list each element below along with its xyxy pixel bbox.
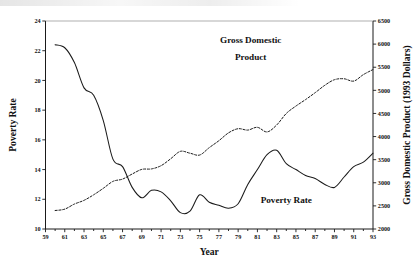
annotations: Gross DomesticProductPoverty Rate bbox=[220, 35, 312, 205]
axis-titles: YearPoverty RateGross Domestic Product (… bbox=[7, 45, 413, 256]
y-axis-left-tick-label: 24 bbox=[35, 17, 41, 24]
x-axis-tick-label: 75 bbox=[197, 233, 203, 240]
x-axis-tick-label: 79 bbox=[235, 233, 241, 240]
x-axis-title: Year bbox=[200, 246, 220, 257]
x-axis-tick-label: 87 bbox=[312, 233, 318, 240]
y-axis-right: 2000250030003500400045005000550060006500 bbox=[373, 17, 390, 232]
x-axis-tick-label: 67 bbox=[119, 233, 125, 240]
x-axis-tick-label: 59 bbox=[42, 233, 48, 240]
y-axis-right-tick-label: 5000 bbox=[378, 87, 390, 94]
x-axis-tick-label: 83 bbox=[274, 233, 280, 240]
y-axis-left-tick-label: 14 bbox=[35, 166, 41, 173]
poverty-gdp-chart-figure: 1012141618202224200025003000350040004500… bbox=[0, 0, 419, 261]
x-axis-tick-label: 73 bbox=[177, 233, 183, 240]
y-axis-right-tick-label: 6000 bbox=[378, 40, 390, 47]
y-axis-left-tick-label: 10 bbox=[35, 225, 41, 232]
x-axis-tick-label: 69 bbox=[139, 233, 145, 240]
y-axis-right-tick-label: 5500 bbox=[378, 63, 390, 70]
y-axis-right-tick-label: 4500 bbox=[378, 110, 390, 117]
dual-axis-line-chart: 1012141618202224200025003000350040004500… bbox=[0, 0, 419, 261]
y-axis-right-tick-label: 2000 bbox=[378, 225, 390, 232]
gdp-line bbox=[55, 70, 373, 211]
x-axis-tick-label: 61 bbox=[62, 233, 68, 240]
y-axis-left: 1012141618202224 bbox=[35, 17, 46, 232]
series-group bbox=[55, 45, 373, 214]
x-axis: 596163656769717375777981838587899193 bbox=[42, 229, 376, 240]
x-axis-tick-label: 63 bbox=[81, 233, 87, 240]
x-axis-tick-label: 71 bbox=[158, 233, 164, 240]
x-axis-tick-label: 89 bbox=[331, 233, 337, 240]
y-axis-right-tick-label: 4000 bbox=[378, 133, 390, 140]
y-axis-right-tick-label: 6500 bbox=[378, 17, 390, 24]
y-axis-left-tick-label: 18 bbox=[35, 106, 41, 113]
plot-frame bbox=[46, 21, 374, 229]
y-axis-left-tick-label: 20 bbox=[35, 77, 41, 84]
y-axis-right-title: Gross Domestic Product (1993 Dollars) bbox=[401, 45, 413, 205]
x-axis-tick-label: 77 bbox=[216, 233, 222, 240]
poverty-rate-series-label: Poverty Rate bbox=[261, 195, 312, 205]
y-axis-left-tick-label: 22 bbox=[35, 47, 41, 54]
y-axis-left-tick-label: 12 bbox=[35, 195, 41, 202]
gdp-series-label: Gross Domestic bbox=[220, 35, 281, 45]
x-axis-tick-label: 85 bbox=[293, 233, 299, 240]
y-axis-right-tick-label: 3500 bbox=[378, 156, 390, 163]
gdp-series-label: Product bbox=[235, 52, 267, 62]
x-axis-tick-label: 91 bbox=[351, 233, 357, 240]
x-axis-tick-label: 65 bbox=[100, 233, 106, 240]
x-axis-tick-label: 93 bbox=[370, 233, 376, 240]
y-axis-right-tick-label: 3000 bbox=[378, 179, 390, 186]
y-axis-left-tick-label: 16 bbox=[35, 136, 41, 143]
x-axis-tick-label: 81 bbox=[254, 233, 260, 240]
y-axis-left-title: Poverty Rate bbox=[7, 97, 18, 151]
y-axis-right-tick-label: 2500 bbox=[378, 202, 390, 209]
